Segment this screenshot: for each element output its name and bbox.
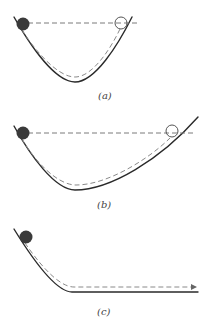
panel-label-b: (b) — [97, 199, 111, 210]
ball-end-b — [166, 125, 178, 137]
panel-a — [14, 17, 140, 82]
ball-start-a — [17, 18, 30, 31]
ball-start-c — [20, 231, 33, 244]
track-curve-c — [14, 229, 198, 292]
panel-label-a: (a) — [98, 90, 112, 101]
ball-path-c — [25, 243, 196, 287]
figure-canvas — [0, 0, 207, 323]
panel-b — [14, 117, 198, 190]
track-curve-a — [14, 17, 132, 82]
panel-label-c: (c) — [97, 306, 110, 317]
panel-c — [14, 229, 198, 292]
ball-start-b — [17, 127, 30, 140]
